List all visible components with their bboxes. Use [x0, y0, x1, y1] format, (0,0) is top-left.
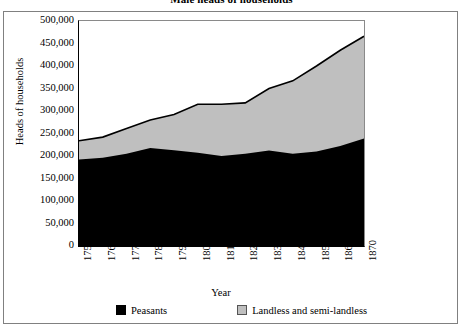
y-axis-tick-label: 300,000 [14, 105, 74, 115]
y-axis-tick-label: 0 [14, 240, 74, 250]
x-axis-tick-label: 1870 [367, 240, 378, 261]
x-axis-tick-label: 1810 [225, 240, 236, 261]
y-axis-tick-label: 450,000 [14, 38, 74, 48]
x-axis-tick-label: 1780 [153, 240, 164, 261]
y-axis-tick-labels: 500,000450,000400,000350,000300,000250,0… [14, 0, 74, 260]
x-axis-tick-labels: 1750176017701780179018001810182018301840… [78, 247, 364, 287]
x-axis-tick-label: 1800 [201, 240, 212, 261]
gray-square-swatch-icon [237, 305, 247, 315]
black-square-swatch-icon [116, 305, 126, 315]
y-axis-tick-label: 250,000 [14, 128, 74, 138]
y-axis-tick-label: 150,000 [14, 173, 74, 183]
x-axis-tick-label: 1760 [106, 240, 117, 261]
x-axis-tick-label: 1790 [177, 240, 188, 261]
x-axis-tick-label: 1750 [82, 240, 93, 261]
y-axis-tick-label: 50,000 [14, 218, 74, 228]
legend-item-peasants: Peasants [116, 305, 167, 316]
y-axis-tick-label: 500,000 [14, 15, 74, 25]
x-axis-tick-label: 1770 [130, 240, 141, 261]
chart-figure: Male heads of households Heads of househ… [0, 0, 463, 327]
x-axis-title: Year [78, 287, 364, 298]
plot-area [78, 20, 365, 247]
stacked-area-series [79, 21, 364, 246]
x-axis-tick-label: 1830 [272, 240, 283, 261]
legend-label-landless: Landless and semi-landless [252, 305, 367, 316]
x-axis-tick-label: 1840 [296, 240, 307, 261]
chart-legend: Peasants Landless and semi-landless [78, 302, 408, 318]
legend-label-peasants: Peasants [131, 305, 167, 316]
y-axis-tick-label: 200,000 [14, 150, 74, 160]
legend-item-landless: Landless and semi-landless [237, 305, 367, 316]
y-axis-tick-label: 400,000 [14, 60, 74, 70]
y-axis-tick-label: 350,000 [14, 83, 74, 93]
x-axis-tick-label: 1860 [343, 240, 354, 261]
x-axis-tick-label: 1820 [248, 240, 259, 261]
x-axis-tick-label: 1850 [320, 240, 331, 261]
y-axis-tick-label: 100,000 [14, 195, 74, 205]
